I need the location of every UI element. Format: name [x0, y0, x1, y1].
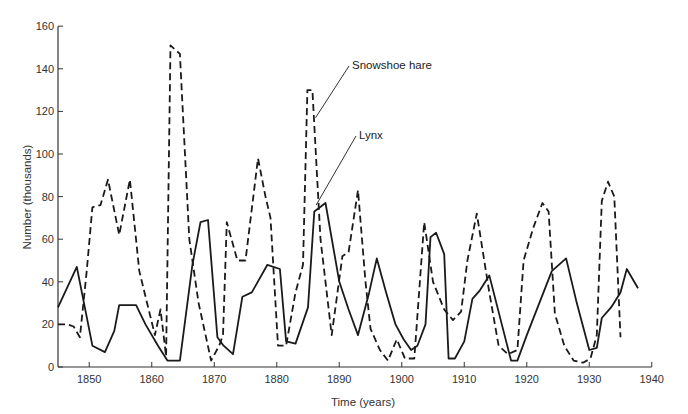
y-tick-label: 0: [48, 361, 54, 373]
x-tick-label: 1890: [327, 373, 351, 385]
annotations: Snowshoe hareLynx: [316, 59, 432, 205]
annotation-leader-line: [316, 136, 356, 205]
y-tick-label: 20: [42, 318, 54, 330]
x-tick-label: 1870: [202, 373, 226, 385]
x-axis-title: Time (years): [331, 396, 395, 408]
annotation-label: Lynx: [359, 129, 383, 141]
x-tick-label: 1900: [390, 373, 414, 385]
x-tick-label: 1860: [140, 373, 164, 385]
y-tick-label: 40: [42, 276, 54, 288]
x-tick-label: 1850: [77, 373, 101, 385]
x-tick-label: 1920: [515, 373, 539, 385]
x-tick-label: 1910: [452, 373, 476, 385]
x-tick-label: 1930: [577, 373, 601, 385]
annotation-leader-line: [316, 66, 350, 118]
axes: 1850186018701880189019001910192019301940…: [36, 20, 664, 385]
y-tick-label: 60: [42, 233, 54, 245]
y-tick-label: 120: [36, 105, 54, 117]
y-tick-label: 140: [36, 63, 54, 75]
snowshoe-hare-line: [58, 45, 621, 362]
y-axis-title: Number (thousands): [21, 144, 33, 249]
x-tick-label: 1880: [265, 373, 289, 385]
y-tick-label: 100: [36, 148, 54, 160]
lynx-line: [58, 203, 638, 361]
line-chart: 1850186018701880189019001910192019301940…: [0, 0, 688, 414]
series-lines: [58, 45, 638, 362]
annotation-label: Snowshoe hare: [352, 59, 432, 71]
y-tick-label: 160: [36, 20, 54, 32]
y-tick-label: 80: [42, 191, 54, 203]
x-tick-label: 1940: [640, 373, 664, 385]
